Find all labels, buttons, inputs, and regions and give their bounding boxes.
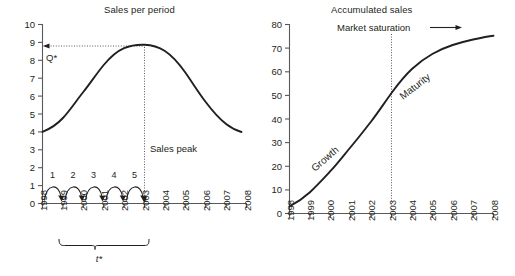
maturity-phase-label: Maturity [397,71,432,102]
y-tick-label: 10 [271,184,282,195]
y-tick-label: 2 [30,162,35,173]
x-tick-label: 2005 [180,190,191,211]
period-arcs-group: 1 2 3 4 5 [45,170,147,202]
period-arc-number: 1 [50,170,55,180]
y-tick-label: 10 [24,19,35,30]
y-tick-label: 70 [271,43,282,54]
growth-phase-label: Growth [309,144,341,173]
x-tick-label: 2001 [346,200,357,221]
y-tick-label: 60 [271,66,282,77]
q-star-label: Q* [46,52,57,63]
period-arc-number: 4 [111,170,116,180]
y-tick-label: 6 [30,91,35,102]
t-star-brace [59,239,149,250]
y-tick-label: 30 [271,137,282,148]
x-tick-label: 2006 [448,200,459,221]
y-tick-label: 80 [271,19,282,30]
period-arc-number: 3 [91,170,96,180]
y-tick-label: 4 [30,126,35,137]
y-tick-label: 0 [30,198,35,209]
y-tick-label: 5 [30,109,35,120]
market-saturation-arrowhead-icon [456,25,463,30]
x-tick-label: 1998 [38,190,49,211]
chart-svg-sales-per-period: 10 9 8 7 6 5 4 3 2 1 0 [0,0,258,276]
q-star-arrowhead-icon [43,43,50,48]
market-saturation-label: Market saturation [337,22,410,33]
y-tick-labels-right: 80 70 60 50 40 30 20 10 0 [271,19,282,219]
y-ticks-right [285,25,290,214]
x-tick-label: 2006 [201,190,212,211]
x-tick-label: 2000 [325,200,336,221]
panel-sales-per-period: Sales per period 10 [0,0,258,276]
x-tick-label: 1999 [305,200,316,221]
sales-peak-label: Sales peak [150,143,197,154]
y-tick-label: 40 [271,114,282,125]
y-tick-label: 1 [30,180,35,191]
x-tick-label: 2004 [160,190,171,211]
figure-sales-lifecycle: Sales per period 10 [0,0,515,276]
y-tick-label: 9 [30,37,35,48]
x-tick-label: 2004 [407,200,418,221]
x-tick-label: 2007 [221,190,232,211]
period-arc-number: 5 [132,170,137,180]
panel-accumulated-sales: Accumulated sales 80 70 [258,0,515,276]
y-tick-label: 20 [271,161,282,172]
accumulated-sales-curve [290,36,494,207]
x-tick-label: 2007 [468,200,479,221]
y-tick-label: 3 [30,144,35,155]
x-tick-label: 2005 [427,200,438,221]
y-ticks-left [38,25,43,204]
y-tick-label: 7 [30,73,35,84]
y-tick-label: 0 [277,208,282,219]
x-tick-label: 2002 [366,200,377,221]
y-tick-label: 8 [30,55,35,66]
chart-svg-accumulated-sales: 80 70 60 50 40 30 20 10 0 [258,0,515,276]
period-arc-number: 2 [70,170,75,180]
y-tick-labels-left: 10 9 8 7 6 5 4 3 2 1 0 [24,19,35,209]
x-tick-label: 2008 [489,200,500,221]
x-tick-label: 2008 [242,190,253,211]
t-star-label: t* [96,253,103,264]
y-tick-label: 50 [271,90,282,101]
sales-per-period-curve [43,45,242,132]
